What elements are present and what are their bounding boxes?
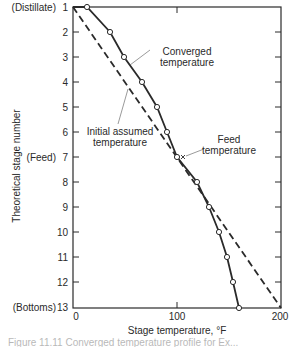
- y-tick-13: 13: [57, 302, 69, 313]
- bottoms-label: (Bottoms): [13, 302, 56, 313]
- initial-annotation-line2: temperature: [93, 137, 147, 148]
- y-tick-2: 2: [62, 27, 68, 38]
- distillate-label: (Distillate): [12, 2, 56, 13]
- feed-annotation-line2: temperature: [202, 145, 256, 156]
- y-tick-7: 7: [62, 152, 68, 163]
- x-tick-0: 0: [73, 311, 79, 322]
- y-axis-left-ticks: [73, 32, 79, 282]
- y-tick-9: 9: [62, 202, 68, 213]
- stage-temperature-chart: 1 2 3 4 5 6 7 8 9 10 11 12 13 (Distillat…: [0, 0, 298, 347]
- y-tick-3: 3: [62, 52, 68, 63]
- converged-temperature-line: [73, 7, 239, 308]
- converged-annotation-line2: temperature: [160, 57, 214, 68]
- x-tick-100: 100: [169, 311, 186, 322]
- y-tick-8: 8: [62, 177, 68, 188]
- y-tick-10: 10: [57, 227, 69, 238]
- initial-leader-line: [118, 89, 128, 124]
- y-tick-4: 4: [62, 77, 68, 88]
- y-axis-title: Theoretical stage number: [11, 109, 22, 223]
- y-axis-right-ticks: [275, 32, 281, 282]
- feed-label: (Feed): [27, 152, 56, 163]
- y-tick-11: 11: [58, 252, 69, 263]
- y-tick-labels: 1 2 3 4 5 6 7 8 9 10 11 12 13: [57, 2, 69, 313]
- x-axis-title: Stage temperature, °F: [128, 325, 227, 336]
- feed-temperature-x-marker: [181, 155, 185, 159]
- initial-annotation-line1: Initial assumed: [87, 126, 154, 137]
- converged-annotation-line1: Converged: [163, 46, 212, 57]
- converged-leader-line: [130, 50, 150, 65]
- figure-caption: Figure 11.11 Converged temperature profi…: [8, 337, 238, 347]
- y-tick-1: 1: [62, 2, 68, 13]
- y-tick-5: 5: [62, 102, 68, 113]
- x-tick-200: 200: [272, 311, 289, 322]
- y-tick-12: 12: [57, 277, 69, 288]
- y-tick-6: 6: [62, 127, 68, 138]
- feed-annotation-line1: Feed: [218, 134, 241, 145]
